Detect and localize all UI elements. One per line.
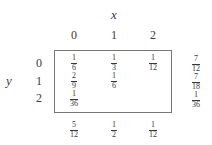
x-axis-label: x — [111, 7, 117, 23]
col-marginal-2: 112 — [149, 121, 157, 139]
col-header-1: 1 — [111, 28, 117, 43]
row-marginal-0: 712 — [192, 55, 200, 73]
cell-0-1: 13 — [111, 54, 117, 72]
row-header-0: 0 — [36, 56, 42, 71]
row-marginal-1: 718 — [192, 73, 200, 91]
col-header-0: 0 — [71, 28, 77, 43]
col-marginal-1: 12 — [111, 121, 117, 139]
y-axis-label: y — [6, 73, 12, 89]
cell-0-0: 16 — [71, 54, 77, 72]
row-header-1: 1 — [36, 74, 42, 89]
row-marginal-2: 136 — [192, 91, 200, 109]
cell-1-1: 16 — [111, 72, 117, 90]
row-header-2: 2 — [36, 91, 42, 106]
cell-0-2: 112 — [149, 54, 157, 72]
cell-1-0: 29 — [71, 72, 77, 90]
cell-2-0: 136 — [70, 90, 78, 108]
col-header-2: 2 — [150, 28, 156, 43]
col-marginal-0: 512 — [70, 121, 78, 139]
